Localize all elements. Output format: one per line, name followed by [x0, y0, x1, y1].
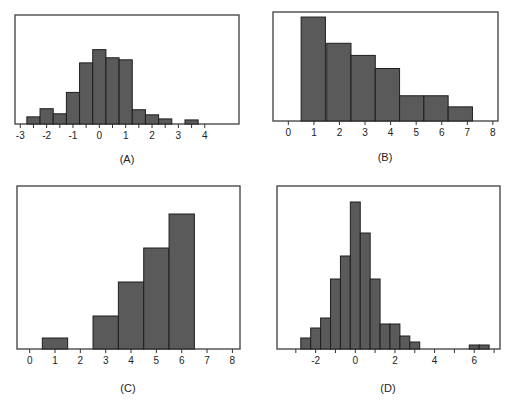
panel-caption: (A) — [120, 153, 135, 165]
histogram-bar — [185, 120, 198, 124]
x-tick-label: -1 — [69, 130, 78, 141]
histogram-bar — [169, 214, 194, 349]
x-tick-label: 5 — [154, 355, 160, 366]
histogram-bar — [145, 115, 158, 124]
histogram-bar — [27, 117, 40, 124]
histogram-bar — [448, 107, 472, 121]
x-tick-label: -2 — [311, 355, 320, 366]
histogram-bar — [53, 114, 66, 124]
histogram-bar — [93, 316, 118, 349]
x-tick-label: 7 — [204, 355, 210, 366]
x-tick-label: 1 — [52, 355, 58, 366]
x-tick-label: 0 — [27, 355, 33, 366]
histogram-bar — [390, 324, 400, 349]
histogram-bar — [351, 55, 375, 121]
histogram-a: -3-2-101234 — [15, 15, 239, 146]
histogram-bar — [106, 58, 119, 124]
histogram-bar — [400, 96, 424, 121]
histogram-bar — [350, 202, 360, 349]
x-tick-label: 6 — [439, 127, 445, 138]
histogram-bar — [301, 17, 325, 121]
x-tick-label: 7 — [465, 127, 471, 138]
histogram-bar — [321, 318, 331, 349]
histogram-bar — [66, 92, 79, 124]
x-tick-label: 4 — [128, 355, 134, 366]
histogram-bar — [331, 279, 341, 349]
panel-caption: (D) — [380, 382, 395, 394]
x-tick-label: 6 — [179, 355, 185, 366]
histogram-bar — [380, 324, 390, 349]
x-tick-label: 4 — [432, 355, 438, 366]
x-tick-label: 0 — [353, 355, 359, 366]
histogram-d: -20246 — [277, 186, 500, 371]
histogram-bar — [375, 69, 399, 121]
histogram-bar — [327, 43, 351, 121]
x-tick-label: 3 — [103, 355, 109, 366]
x-tick-label: 8 — [490, 127, 496, 138]
x-tick-label: 5 — [413, 127, 419, 138]
histogram-bar — [80, 63, 93, 124]
x-tick-label: 4 — [388, 127, 394, 138]
histogram-b: 012345678 — [273, 12, 498, 143]
histogram-bar — [479, 345, 489, 349]
histogram-c: 012345678 — [17, 186, 240, 371]
panel-caption: (C) — [120, 382, 135, 394]
x-tick-label: 1 — [123, 130, 129, 141]
histogram-bar — [370, 279, 380, 349]
panel-caption: (B) — [378, 151, 393, 163]
histogram-bar — [119, 60, 132, 124]
x-tick-label: 2 — [78, 355, 84, 366]
x-tick-label: 0 — [97, 130, 103, 141]
histogram-bar — [118, 282, 143, 349]
x-tick-label: 2 — [392, 355, 398, 366]
histogram-bar — [40, 109, 53, 124]
x-tick-label: -3 — [16, 130, 25, 141]
x-tick-label: 6 — [471, 355, 477, 366]
histogram-bar — [424, 96, 448, 121]
x-tick-label: 4 — [202, 130, 208, 141]
x-tick-label: -2 — [42, 130, 51, 141]
x-tick-label: 1 — [311, 127, 317, 138]
x-tick-label: 8 — [230, 355, 236, 366]
histogram-bar — [360, 233, 370, 349]
histogram-bar — [132, 110, 145, 124]
histogram-bar — [311, 328, 321, 349]
x-tick-label: 3 — [176, 130, 182, 141]
histogram-bar — [42, 338, 67, 349]
histogram-bar — [159, 119, 172, 124]
x-tick-label: 3 — [362, 127, 368, 138]
histogram-bar — [340, 256, 350, 349]
histogram-bar — [400, 336, 410, 349]
x-tick-label: 2 — [149, 130, 155, 141]
histogram-bar — [301, 338, 311, 349]
x-tick-label: 2 — [337, 127, 343, 138]
histogram-bar — [144, 248, 169, 349]
histogram-bar — [469, 345, 479, 349]
histogram-bar — [93, 50, 106, 124]
histogram-bar — [410, 342, 420, 349]
x-tick-label: 0 — [286, 127, 292, 138]
